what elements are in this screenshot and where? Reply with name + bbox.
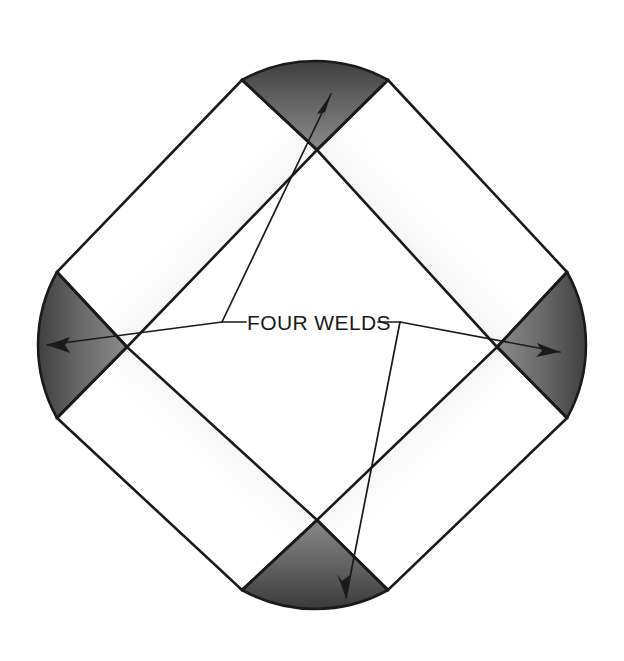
four-welds-label: FOUR WELDS bbox=[247, 311, 391, 334]
four-welds-diagram: FOUR WELDS bbox=[0, 0, 624, 661]
weld-diagram-root: FOUR WELDS bbox=[0, 0, 624, 661]
